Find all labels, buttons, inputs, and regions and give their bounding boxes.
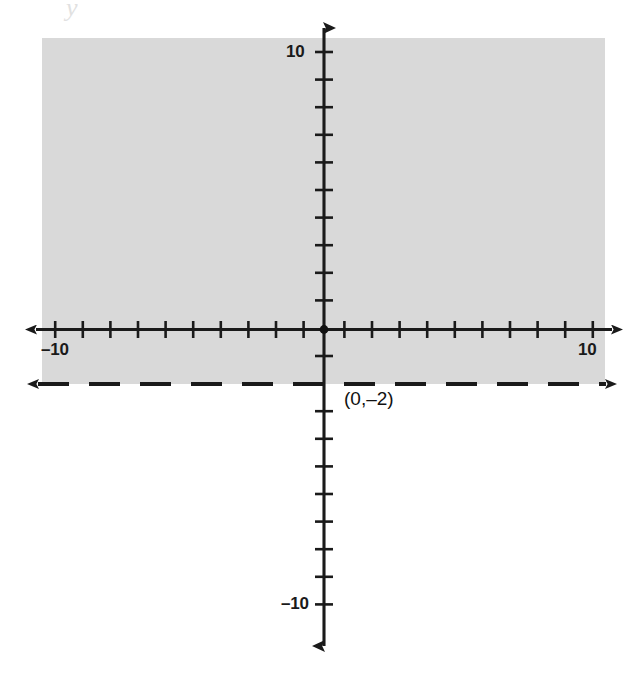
y-axis-label-negative-10: –10 xyxy=(281,594,309,614)
x-axis-label-negative-10: –10 xyxy=(41,340,69,360)
coordinate-plane-svg xyxy=(0,0,633,676)
x-axis-label-10: 10 xyxy=(578,340,597,360)
origin-point xyxy=(320,325,329,334)
point-label-0-negative-2: (0,–2) xyxy=(344,388,394,410)
graph-figure: y xyxy=(0,0,633,676)
y-axis-label-10: 10 xyxy=(286,42,305,62)
